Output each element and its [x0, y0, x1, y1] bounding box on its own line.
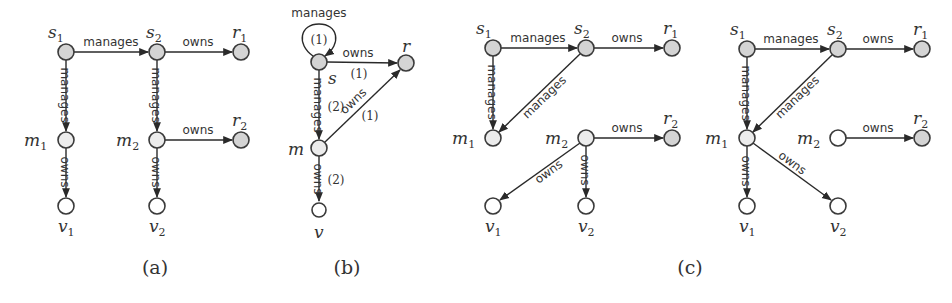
node-label-s2: s2 [146, 22, 162, 45]
node-label-r1: r1 [663, 18, 678, 41]
node-s1 [739, 41, 755, 57]
edge-label: manages [772, 73, 821, 121]
node-label-m2: m2 [545, 128, 568, 151]
edge-label: owns [862, 121, 893, 135]
node-m1 [485, 130, 501, 146]
multiplicity-label: (2) [328, 173, 345, 187]
diagram-b: manages (1) owns (1) manages (2) owns (1… [288, 6, 414, 278]
edge-label: owns [342, 46, 373, 60]
node-label-r: r [402, 36, 411, 56]
node-m [311, 140, 327, 156]
node-label-v1: v1 [739, 216, 756, 239]
node-m1 [739, 130, 755, 146]
edge-label: manages [519, 73, 568, 121]
edge-label: owns [182, 35, 213, 49]
edge-label: owns [578, 154, 592, 185]
node-label-r1: r1 [913, 19, 928, 42]
node-label-v1: v1 [58, 216, 75, 239]
node-label-r1: r1 [232, 22, 247, 45]
diagram-a: manages owns manages manages owns owns o… [24, 22, 249, 278]
node-s1 [58, 44, 74, 60]
node-label-s: s [328, 68, 337, 88]
node-label-m1: m1 [24, 130, 47, 153]
node-v1 [739, 198, 755, 214]
node-v2 [830, 198, 846, 214]
node-m2 [578, 130, 594, 146]
node-r1 [914, 41, 930, 57]
node-label-v2: v2 [149, 216, 166, 239]
caption-a: (a) [142, 256, 168, 278]
figure-canvas: manages owns manages manages owns owns o… [0, 0, 952, 303]
node-s2 [830, 41, 846, 57]
node-m2 [830, 130, 846, 146]
edge-label: manages [510, 31, 565, 45]
edge-label: owns [311, 163, 325, 194]
node-label-s1: s1 [730, 19, 746, 42]
node-v1 [485, 198, 501, 214]
edge-label: owns [58, 156, 72, 187]
node-r [398, 55, 414, 71]
node-label-s1: s1 [48, 22, 64, 45]
node-m1 [58, 132, 74, 148]
edge-label: owns [776, 148, 809, 178]
node-r1 [664, 40, 680, 56]
node-s2 [149, 44, 165, 60]
edge-label: owns [739, 155, 753, 186]
multiplicity-label: (1) [362, 109, 379, 123]
edge-label: manages [83, 35, 138, 49]
node-label-s2: s2 [827, 19, 843, 42]
caption-b: (b) [334, 256, 361, 278]
node-r2 [914, 130, 930, 146]
node-v2 [149, 198, 165, 214]
node-v1 [58, 198, 74, 214]
node-v [312, 203, 326, 217]
node-label-r2: r2 [232, 110, 247, 133]
node-label-v2: v2 [578, 216, 595, 239]
edge-label: manages [763, 32, 818, 46]
node-s2 [578, 40, 594, 56]
node-label-s1: s1 [476, 18, 492, 41]
multiplicity-label: (1) [351, 67, 368, 81]
edge-label: owns [182, 123, 213, 137]
node-label-r2: r2 [663, 108, 678, 131]
node-label-m2: m2 [116, 130, 139, 153]
caption-c: (c) [677, 256, 702, 278]
node-label-m1: m1 [705, 128, 728, 151]
edge-label: manages [311, 77, 325, 132]
node-label-v2: v2 [830, 216, 847, 239]
node-label-r2: r2 [913, 108, 928, 131]
node-label-v1: v1 [485, 216, 502, 239]
node-label-m: m [288, 139, 304, 159]
edge-label: owns [532, 157, 565, 187]
node-label-m2: m2 [797, 128, 820, 151]
edge-label: manages [291, 6, 346, 20]
edge-m1-v2 [753, 143, 831, 200]
node-r2 [233, 132, 249, 148]
edge-label: manages [58, 67, 72, 122]
edge-label: owns [862, 32, 893, 46]
node-v2 [578, 198, 594, 214]
edge-s-r [327, 62, 397, 63]
edge-label: manages [149, 67, 163, 122]
node-s [311, 54, 327, 70]
node-label-v: v [314, 222, 324, 242]
edge-label: manages [485, 64, 499, 119]
diagram-c-right: manages owns manages manages owns owns o… [705, 19, 930, 239]
edge-label: manages [739, 65, 753, 120]
node-label-m1: m1 [452, 128, 475, 151]
node-label-s2: s2 [574, 18, 590, 41]
multiplicity-label: (1) [311, 33, 328, 47]
edge-label: owns [611, 31, 642, 45]
node-r2 [664, 130, 680, 146]
edge-label: owns [149, 156, 163, 187]
edge-label: owns [611, 121, 642, 135]
node-m2 [149, 132, 165, 148]
diagram-c-left: manages owns manages manages owns owns o… [452, 18, 680, 239]
node-r1 [233, 44, 249, 60]
node-s1 [485, 40, 501, 56]
